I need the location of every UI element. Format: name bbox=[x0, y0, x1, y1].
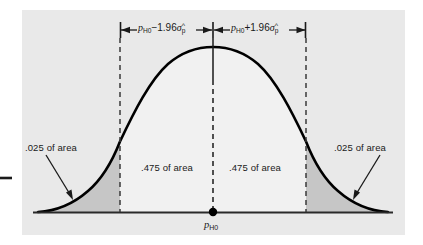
upper-range-op: +1.96 bbox=[244, 22, 269, 33]
left-body-area-label: .475 of area bbox=[141, 162, 193, 173]
center-value-label: pH0 bbox=[204, 218, 218, 231]
distribution-plot bbox=[0, 0, 423, 245]
right-tail-leader-arrow bbox=[353, 155, 380, 200]
lower-range-sigma-sub: p bbox=[182, 27, 186, 34]
right-body-area-label: .475 of area bbox=[229, 162, 281, 173]
normal-curve-figure: pH0−1.96σp pH0+1.96σp .025 of area .025 … bbox=[0, 0, 423, 245]
left-tail-area-label: .025 of area bbox=[25, 142, 77, 153]
lower-range-label: pH0−1.96σp bbox=[138, 22, 185, 34]
center-sub2: 0 bbox=[214, 224, 218, 231]
upper-range-label: pH0+1.96σp bbox=[231, 22, 278, 34]
right-tail-area-label: .025 of area bbox=[334, 142, 386, 153]
lower-range-op: −1.96 bbox=[151, 22, 176, 33]
left-tail-leader-arrow bbox=[46, 155, 73, 200]
center-point-dot bbox=[209, 208, 217, 216]
upper-range-sigma-sub: p bbox=[275, 27, 279, 34]
